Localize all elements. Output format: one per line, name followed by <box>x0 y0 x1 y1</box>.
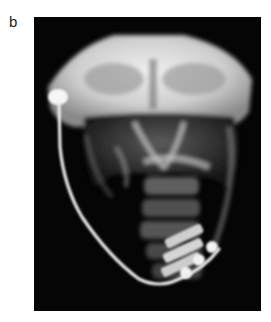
panel-label: b <box>9 14 17 29</box>
xray-image <box>34 17 261 311</box>
skull <box>48 35 252 279</box>
